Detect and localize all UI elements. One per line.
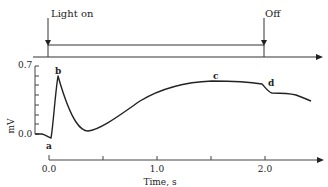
x-axis-label: Time, s [143,177,176,187]
off-label: Off [265,8,281,19]
x-tick-label-0: 0.0 [42,164,57,174]
y-tick-label-zero: 0.0 [18,129,33,139]
point-label-d: d [268,78,275,88]
point-label-b: b [55,66,61,76]
y-axis: 0.7 0.0 mV [6,60,39,139]
x-tick-label-2: 2.0 [258,164,273,174]
x-tick-label-1: 1.0 [150,164,165,174]
stimulus-bar [48,45,264,57]
stimulus-timeline: Light on Off [33,8,323,60]
y-tick-label-top: 0.7 [18,60,33,70]
timeline-arrowhead-icon [316,54,323,60]
light-on-label: Light on [51,8,94,19]
x-axis: 0.0 1.0 2.0 Time, s [42,155,324,187]
y-axis-label: mV [6,118,16,134]
x-axis-arrowhead-icon [317,157,324,163]
point-label-c: c [213,71,219,81]
erg-chart: Light on Off 0.7 0.0 mV 0.0 1.0 2.0 Time… [0,0,328,187]
point-label-a: a [46,141,52,151]
